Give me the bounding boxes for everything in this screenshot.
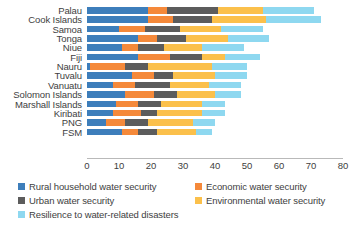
- stacked-bar[interactable]: [87, 72, 247, 79]
- bar-segment[interactable]: [148, 119, 193, 126]
- stacked-bar[interactable]: [87, 101, 225, 108]
- bar-segment[interactable]: [87, 16, 148, 23]
- bar-segment[interactable]: [202, 110, 224, 117]
- category-label: FSM: [0, 128, 82, 137]
- bar-segment[interactable]: [122, 44, 138, 51]
- bar-segment[interactable]: [148, 16, 174, 23]
- legend-item[interactable]: Economic water security: [195, 182, 307, 192]
- bar-segment[interactable]: [202, 101, 224, 108]
- legend-item[interactable]: Resilience to water-related disasters: [18, 210, 178, 220]
- bar-segment[interactable]: [87, 119, 106, 126]
- bar-segment[interactable]: [215, 72, 247, 79]
- bar-segment[interactable]: [154, 91, 176, 98]
- bar-segment[interactable]: [193, 119, 215, 126]
- legend-swatch-environmental: [195, 197, 202, 204]
- stacked-bar[interactable]: [87, 35, 269, 42]
- bar-segment[interactable]: [141, 110, 157, 117]
- stacked-bar[interactable]: [87, 129, 212, 136]
- bar-segment[interactable]: [125, 63, 147, 70]
- bar-segment[interactable]: [138, 54, 170, 61]
- x-tick-label: 10: [104, 160, 134, 171]
- stacked-bar[interactable]: [87, 16, 321, 23]
- bar-segment[interactable]: [132, 72, 154, 79]
- bar-segment[interactable]: [138, 101, 160, 108]
- legend-item[interactable]: Environmental water security: [195, 196, 325, 206]
- bar-segment[interactable]: [177, 91, 215, 98]
- bar-segment[interactable]: [87, 129, 122, 136]
- stacked-bar[interactable]: [87, 91, 241, 98]
- bar-segment[interactable]: [186, 35, 228, 42]
- bar-segment[interactable]: [122, 129, 138, 136]
- bar-segment[interactable]: [119, 26, 145, 33]
- bar-segment[interactable]: [212, 63, 247, 70]
- bar-segment[interactable]: [173, 16, 211, 23]
- bar-segment[interactable]: [148, 7, 167, 14]
- bar-segment[interactable]: [87, 26, 119, 33]
- bar-segment[interactable]: [209, 82, 241, 89]
- stacked-bar[interactable]: [87, 26, 263, 33]
- bar-segment[interactable]: [113, 110, 142, 117]
- bar-segment[interactable]: [266, 16, 320, 23]
- bar-segment[interactable]: [215, 91, 241, 98]
- legend-swatch-resilience: [18, 211, 25, 218]
- bar-segment[interactable]: [218, 7, 263, 14]
- bar-segment[interactable]: [87, 44, 122, 51]
- legend-item[interactable]: Rural household water security: [18, 182, 156, 192]
- bar-segment[interactable]: [157, 35, 186, 42]
- bar-segment[interactable]: [116, 101, 138, 108]
- bar-segment[interactable]: [164, 44, 202, 51]
- bar-segment[interactable]: [125, 91, 154, 98]
- bar-segment[interactable]: [145, 26, 180, 33]
- bar-segment[interactable]: [87, 101, 116, 108]
- chart-row: Solomon Islands: [0, 90, 353, 99]
- bar-segment[interactable]: [87, 82, 113, 89]
- bar-segment[interactable]: [138, 129, 157, 136]
- bar-segment[interactable]: [196, 129, 212, 136]
- bar-segment[interactable]: [167, 7, 218, 14]
- stacked-bar[interactable]: [87, 119, 215, 126]
- bar-segment[interactable]: [87, 110, 113, 117]
- bar-segment[interactable]: [173, 72, 215, 79]
- bar-segment[interactable]: [135, 82, 170, 89]
- bar-segment[interactable]: [87, 91, 125, 98]
- bar-segment[interactable]: [161, 101, 203, 108]
- chart-row: Marshall Islands: [0, 100, 353, 109]
- bar-segment[interactable]: [138, 35, 157, 42]
- bar-segment[interactable]: [202, 44, 244, 51]
- legend-label: Resilience to water-related disasters: [29, 210, 178, 220]
- bar-segment[interactable]: [180, 26, 222, 33]
- bar-segment[interactable]: [202, 54, 224, 61]
- bar-segment[interactable]: [228, 35, 270, 42]
- bar-segment[interactable]: [148, 63, 212, 70]
- bar-segment[interactable]: [154, 72, 173, 79]
- bar-segment[interactable]: [157, 129, 195, 136]
- legend-label: Rural household water security: [29, 182, 156, 192]
- bar-segment[interactable]: [106, 119, 125, 126]
- bar-segment[interactable]: [212, 16, 266, 23]
- chart-row: Nauru: [0, 62, 353, 71]
- bar-segment[interactable]: [221, 26, 263, 33]
- bar-segment[interactable]: [225, 54, 260, 61]
- stacked-bar[interactable]: [87, 63, 247, 70]
- legend-swatch-rural: [18, 183, 25, 190]
- bar-segment[interactable]: [90, 63, 125, 70]
- legend-item[interactable]: Urban water security: [18, 196, 114, 206]
- stacked-bar[interactable]: [87, 7, 314, 14]
- x-tick-label: 0: [72, 160, 102, 171]
- bar-segment[interactable]: [170, 82, 208, 89]
- bar-segment[interactable]: [157, 110, 202, 117]
- stacked-bar[interactable]: [87, 54, 260, 61]
- bar-segment[interactable]: [138, 44, 164, 51]
- stacked-bar[interactable]: [87, 110, 225, 117]
- bar-segment[interactable]: [87, 72, 132, 79]
- stacked-bar[interactable]: [87, 82, 241, 89]
- stacked-bar[interactable]: [87, 44, 244, 51]
- stacked-bar-chart: PalauCook IslandsSamoaTongaNiueFijiNauru…: [0, 0, 353, 235]
- bar-segment[interactable]: [87, 7, 148, 14]
- bar-segment[interactable]: [87, 35, 138, 42]
- bar-segment[interactable]: [263, 7, 314, 14]
- bar-segment[interactable]: [125, 119, 147, 126]
- bar-segment[interactable]: [113, 82, 135, 89]
- bar-segment[interactable]: [170, 54, 202, 61]
- bar-segment[interactable]: [87, 54, 138, 61]
